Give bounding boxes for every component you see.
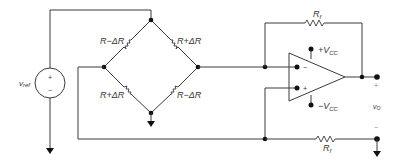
- label-top-left: R−ΔR: [100, 36, 125, 46]
- source-ground-icon: [46, 148, 54, 154]
- output-terminal-positive: [374, 74, 380, 80]
- source-label: vref: [19, 79, 31, 88]
- rf-bottom-label: Rf: [323, 143, 333, 154]
- feedback-resistor-bottom: [265, 136, 377, 142]
- output-plus: +: [374, 82, 378, 89]
- circuit-diagram: + − vref R−ΔR R+ΔR R+ΔR: [0, 0, 399, 167]
- feedback-resistor-top: [265, 20, 362, 77]
- vcc-neg-label: −VCC: [318, 101, 339, 112]
- output-label: vO: [373, 103, 381, 111]
- label-top-right: R+ΔR: [177, 36, 202, 46]
- bridge: [102, 18, 201, 121]
- opamp-noninverting-sign: +: [303, 85, 307, 92]
- source-plus: +: [48, 74, 52, 81]
- voltage-source-icon: + −: [35, 68, 65, 148]
- vcc-pos-node: [309, 47, 314, 52]
- vcc-pos-label: +VCC: [318, 45, 339, 56]
- label-bottom-right: R−ΔR: [177, 90, 202, 100]
- output-junction: [360, 75, 365, 80]
- output-minus: −: [374, 124, 378, 131]
- bridge-node-top: [149, 18, 154, 23]
- bridge-ground-icon: [147, 121, 155, 127]
- output-ground-icon: [373, 151, 381, 157]
- source-minus: −: [48, 87, 52, 94]
- rf-top-label: Rf: [313, 9, 323, 20]
- vcc-neg-node: [309, 103, 314, 108]
- label-bottom-left: R+ΔR: [100, 90, 125, 100]
- opamp-inverting-sign: −: [303, 64, 307, 71]
- circuit-svg: + − vref R−ΔR R+ΔR R+ΔR: [0, 0, 399, 167]
